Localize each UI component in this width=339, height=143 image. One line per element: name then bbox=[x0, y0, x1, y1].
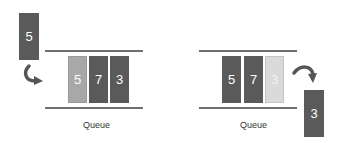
cell-value: 7 bbox=[250, 72, 257, 87]
queue-bottom-rail bbox=[45, 107, 143, 109]
enqueue-arrow-icon bbox=[22, 64, 48, 86]
outgoing-block: 3 bbox=[304, 90, 324, 137]
queue-bottom-rail bbox=[199, 107, 297, 109]
cell-value: 5 bbox=[228, 72, 235, 87]
queue-cell-new: 5 bbox=[68, 56, 87, 103]
cell-value: 3 bbox=[271, 72, 278, 87]
queue-top-rail bbox=[45, 50, 143, 52]
queue-top-rail bbox=[199, 50, 297, 52]
queue-cell: 7 bbox=[89, 56, 108, 103]
cell-value: 5 bbox=[74, 72, 81, 87]
cell-value: 3 bbox=[116, 72, 123, 87]
queue-cell: 7 bbox=[244, 56, 263, 103]
dequeue-arrow-icon bbox=[292, 64, 320, 88]
outgoing-block-value: 3 bbox=[310, 106, 317, 121]
cell-value: 7 bbox=[95, 72, 102, 87]
queue-cell-removed: 3 bbox=[265, 56, 284, 103]
queue-label: Queue bbox=[83, 120, 110, 130]
incoming-block-value: 5 bbox=[25, 29, 32, 44]
queue-cell: 5 bbox=[222, 56, 241, 103]
incoming-block: 5 bbox=[19, 13, 39, 60]
queue-label: Queue bbox=[240, 120, 267, 130]
queue-cell: 3 bbox=[110, 56, 129, 103]
